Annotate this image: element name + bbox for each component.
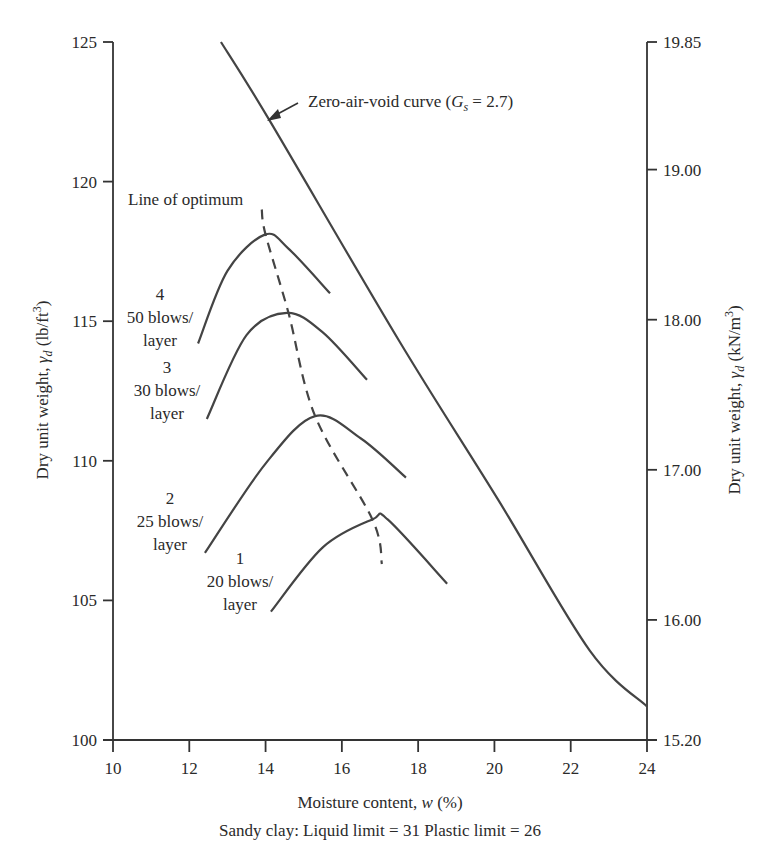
y-left-tick-label: 110 [72,452,97,471]
y-right-tick-label: 17.00 [663,461,701,480]
y-right-tick-label: 16.00 [663,611,701,630]
x-tick-label: 22 [562,759,579,778]
curve-3-label: 3 30 blows/ layer [134,358,201,423]
svg-text:4: 4 [156,285,165,304]
y-left-tick-label: 120 [72,173,98,192]
svg-text:30 blows/: 30 blows/ [134,381,201,400]
svg-text:3: 3 [163,358,172,377]
chart-caption: Sandy clay: Liquid limit = 31 Plastic li… [219,821,541,840]
y-right-tick-label: 19.00 [663,161,701,180]
line-of-optimum [262,210,382,565]
y-right-tick-label: 18.00 [663,311,701,330]
x-tick-label: 16 [333,759,350,778]
svg-text:50 blows/: 50 blows/ [127,308,194,327]
curve-2-label: 2 25 blows/ layer [137,489,204,554]
x-tick-label: 24 [639,759,657,778]
zav-annotation: Zero-air-void curve (Gs = 2.7) [267,92,513,121]
svg-text:2: 2 [166,489,175,508]
svg-text:25 blows/: 25 blows/ [137,512,204,531]
y-right-axis-title: Dry unit weight, γd (kN/m3) [722,305,747,494]
series [198,42,647,706]
x-tick-label: 20 [486,759,503,778]
arrow-head-icon [267,109,281,121]
y-left-axis-title: Dry unit weight, γd (lb/ft3) [30,301,55,480]
svg-text:layer: layer [223,595,257,614]
y-right-tick-label: 15.20 [663,731,701,750]
svg-text:20 blows/: 20 blows/ [207,572,274,591]
compaction-chart: 101214161820222410010511011512012515.201… [0,0,777,860]
svg-text:1: 1 [236,549,245,568]
compaction-curve-4 [198,234,330,344]
x-tick-label: 12 [181,759,198,778]
x-axis-title: Moisture content, w (%) [297,793,462,812]
curve-1-label: 1 20 blows/ layer [207,549,274,614]
compaction-curve-1 [271,513,447,611]
curve-4-label: 4 50 blows/ layer [127,285,194,350]
zav-label: Zero-air-void curve (Gs = 2.7) [308,92,513,114]
zero-air-void-curve [221,42,647,706]
y-left-tick-label: 115 [72,312,97,331]
optimum-label: Line of optimum [128,190,243,209]
y-left-tick-label: 125 [72,33,98,52]
x-tick-label: 18 [410,759,427,778]
svg-text:layer: layer [143,331,177,350]
y-left-tick-label: 100 [72,731,98,750]
y-left-tick-label: 105 [72,591,98,610]
compaction-curve-2 [205,415,406,552]
svg-text:layer: layer [153,535,187,554]
compaction-curve-3 [207,313,367,419]
svg-text:layer: layer [150,404,184,423]
x-tick-label: 10 [105,759,122,778]
y-right-tick-label: 19.85 [663,33,701,52]
x-tick-label: 14 [257,759,275,778]
